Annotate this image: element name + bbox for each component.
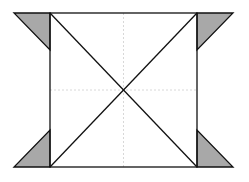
geometry-diagram xyxy=(0,0,249,182)
